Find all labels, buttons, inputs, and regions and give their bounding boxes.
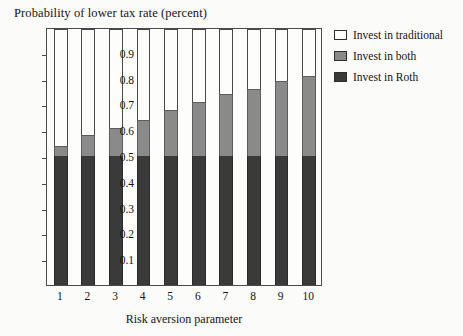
bar-segment-traditional [192, 29, 206, 104]
y-tick-mark [42, 106, 47, 107]
y-tick-label: 0.9 [94, 48, 134, 60]
y-tick-label: 0.7 [94, 99, 134, 111]
bar-group [213, 29, 241, 285]
legend-label: Invest in traditional [353, 29, 443, 41]
bar-group [157, 29, 185, 285]
chart-figure: Probability of lower tax rate (percent) … [0, 0, 463, 336]
legend-label: Invest in Roth [353, 71, 418, 83]
bar-segment-roth [275, 156, 289, 285]
bar-segment-traditional [275, 29, 289, 83]
y-tick-label: 0.1 [94, 254, 134, 266]
legend-label: Invest in both [353, 50, 416, 62]
bar-segment-roth [219, 156, 233, 285]
y-tick-label: 0.6 [94, 125, 134, 137]
bar-segment-both [247, 89, 261, 156]
legend-item: Invest in Roth [334, 68, 459, 86]
bar-group [240, 29, 268, 285]
bar-segment-traditional [219, 29, 233, 96]
bar-segment-roth [192, 156, 206, 285]
chart-legend: Invest in traditionalInvest in bothInves… [334, 26, 459, 89]
bar-group [47, 29, 75, 285]
y-tick-mark [42, 261, 47, 262]
x-axis-title: Risk aversion parameter [46, 312, 322, 327]
y-tick-mark [42, 55, 47, 56]
plot-area [46, 28, 322, 286]
legend-swatch-icon [334, 51, 347, 61]
bar-stack [164, 29, 178, 285]
bar-segment-both [275, 81, 289, 156]
legend-swatch-icon [334, 72, 347, 82]
bar-segment-both [137, 120, 151, 156]
plot-inner [47, 29, 321, 285]
bar-stack [247, 29, 261, 285]
bar-segment-roth [137, 156, 151, 285]
bar-segment-traditional [302, 29, 316, 78]
bar-segment-traditional [54, 29, 68, 148]
bar-segment-traditional [247, 29, 261, 91]
bar-group [268, 29, 296, 285]
y-tick-mark [42, 158, 47, 159]
bar-stack [137, 29, 151, 285]
y-tick-label: 0.2 [94, 228, 134, 240]
y-tick-label: 0.5 [94, 151, 134, 163]
bar-stack [192, 29, 206, 285]
bar-segment-roth [164, 156, 178, 285]
bar-segment-traditional [137, 29, 151, 122]
y-tick-mark [42, 210, 47, 211]
chart-title: Probability of lower tax rate (percent) [14, 6, 207, 21]
bar-stack [219, 29, 233, 285]
bar-group [185, 29, 213, 285]
y-tick-mark [42, 132, 47, 133]
x-tick-label: 10 [288, 290, 328, 302]
legend-item: Invest in both [334, 47, 459, 65]
bar-stack [302, 29, 316, 285]
y-tick-mark [42, 184, 47, 185]
legend-item: Invest in traditional [334, 26, 459, 44]
bar-segment-both [54, 146, 68, 156]
bar-segment-roth [54, 156, 68, 285]
y-tick-label: 0.8 [94, 74, 134, 86]
bar-segment-traditional [164, 29, 178, 112]
bar-segment-roth [302, 156, 316, 285]
y-tick-label: 0.3 [94, 203, 134, 215]
y-tick-mark [42, 81, 47, 82]
bar-group [295, 29, 323, 285]
bar-segment-both [302, 76, 316, 156]
legend-swatch-icon [334, 30, 347, 40]
y-tick-mark [42, 235, 47, 236]
bar-stack [275, 29, 289, 285]
bar-stack [54, 29, 68, 285]
y-tick-label: 0.4 [94, 177, 134, 189]
bar-segment-both [164, 110, 178, 156]
bar-segment-both [192, 102, 206, 156]
bar-segment-roth [247, 156, 261, 285]
bar-segment-both [219, 94, 233, 156]
